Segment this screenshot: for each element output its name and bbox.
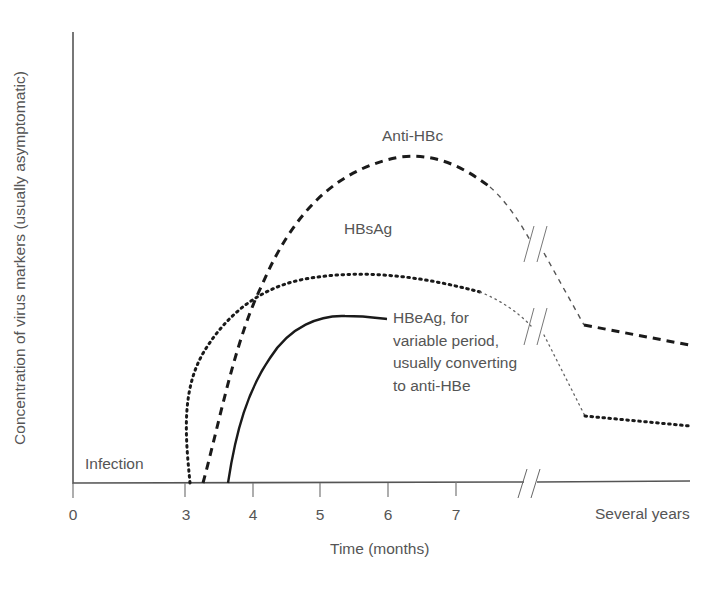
x-axis-label: Time (months) bbox=[330, 541, 429, 557]
hbeag-annotation-line: usually converting bbox=[393, 352, 517, 375]
x-tick-6: 6 bbox=[384, 507, 393, 523]
anti-hbc-break-icon bbox=[524, 226, 547, 262]
series-hbeag bbox=[228, 316, 387, 483]
x-tick-4: 4 bbox=[249, 507, 258, 523]
x-tick-3: 3 bbox=[182, 507, 191, 523]
anti-hbc-label: Anti-HBc bbox=[382, 128, 443, 144]
x-axis-ticks bbox=[73, 482, 456, 498]
infection-label: Infection bbox=[85, 456, 144, 472]
axes bbox=[73, 32, 690, 498]
x-axis-right bbox=[537, 481, 690, 482]
hbeag-annotation-line: HBeAg, for bbox=[393, 307, 517, 330]
hbsag-break-icon bbox=[524, 308, 547, 345]
x-tick-7: 7 bbox=[452, 507, 461, 523]
hbeag-annotation-line: to anti-HBe bbox=[393, 375, 517, 398]
y-axis-label: Concentration of virus markers (usually … bbox=[12, 71, 28, 445]
x-tick-several-years: Several years bbox=[595, 506, 690, 522]
x-tick-0: 0 bbox=[69, 507, 78, 523]
hbsag-label: HBsAg bbox=[344, 221, 392, 237]
hbeag-annotation: HBeAg, for variable period, usually conv… bbox=[393, 307, 517, 397]
x-axis-break-icon bbox=[518, 469, 540, 498]
hbeag-annotation-line: variable period, bbox=[393, 330, 517, 353]
x-tick-5: 5 bbox=[316, 507, 325, 523]
chart-canvas bbox=[0, 0, 721, 590]
